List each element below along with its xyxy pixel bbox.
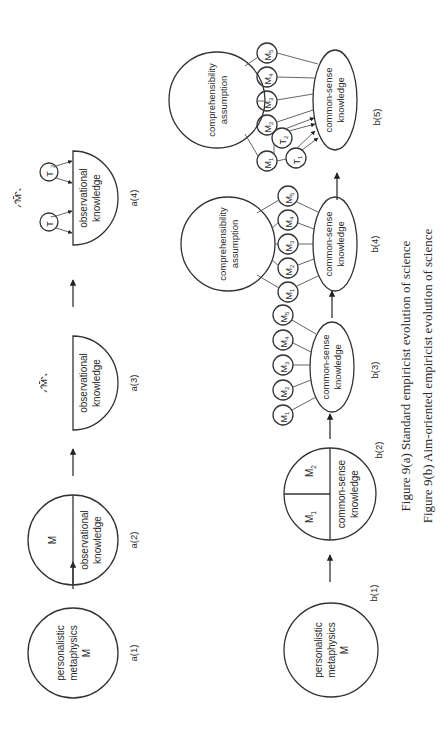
b3-line-2: knowledge — [332, 344, 343, 389]
svg-text:M5: M5 — [284, 192, 295, 204]
a1-line-3: M — [81, 649, 92, 657]
stage-label-b4: b(4) — [369, 236, 380, 253]
b5-comprehensibility-circle — [169, 52, 265, 148]
b5-theory-arrows — [285, 118, 318, 150]
stage-label-b2: b(2) — [373, 442, 384, 459]
caption-figure-9b: Figure 9(b) Aim-oriented empiricist evol… — [420, 228, 435, 523]
b4-line-2: knowledge — [335, 221, 346, 266]
a2-line-2: knowledge — [92, 516, 103, 564]
b2-M2: M2 — [304, 465, 317, 477]
a1-line-2: metaphysics — [68, 625, 79, 681]
b5-line-1: common-sense — [323, 68, 334, 133]
b5-line-2: knowledge — [335, 77, 346, 122]
svg-text:M2: M2 — [263, 121, 274, 133]
caption-figure-9a: Figure 9(a) Standard empiricist evolutio… — [398, 240, 413, 511]
a3-line-1: observational — [78, 353, 89, 412]
svg-text:M1: M1 — [279, 411, 290, 423]
a4-T2-label: T — [45, 171, 55, 177]
b3-metaphysics-circles: M1 M2 M3 M4 M5 — [273, 305, 293, 425]
svg-text:M5: M5 — [263, 49, 274, 61]
svg-text:M3: M3 — [284, 240, 295, 252]
b5-assumption-line-2: assumption — [218, 76, 229, 125]
arrow-T2-right — [56, 161, 72, 166]
b1-line-2: metaphysics — [326, 622, 337, 678]
b2-M1: M1 — [304, 511, 317, 523]
b1-line-1: personalistic — [313, 622, 324, 678]
svg-text:M3: M3 — [279, 361, 290, 373]
b4-lower-connectors — [297, 202, 318, 286]
stage-label-a1: a(1) — [128, 645, 139, 662]
b2-line-1: common-sense — [336, 459, 347, 528]
b5-upper-connectors — [245, 57, 265, 156]
svg-text:T2: T2 — [278, 135, 289, 145]
b5-lower-connectors — [277, 53, 318, 122]
stage-b2: M1 M2 common-sense knowledge b(2) — [284, 442, 384, 540]
b1-line-3: M — [339, 646, 350, 654]
b3-line-1: common-sense — [320, 335, 331, 400]
arrow-T1-right — [56, 211, 72, 216]
svg-text:M5: M5 — [279, 311, 290, 323]
b5-assumption-line-1: comprehensibility — [206, 63, 217, 137]
stage-a3: M observational knowledge a(3) — [38, 336, 139, 430]
stage-label-a2: a(2) — [128, 532, 139, 549]
stage-label-b1: b(1) — [368, 585, 379, 602]
a4-T1-label: T — [45, 221, 55, 227]
svg-text:M1: M1 — [284, 288, 295, 300]
b4-assumption-line-2: assumption — [229, 220, 240, 269]
a3-line-2: knowledge — [91, 359, 102, 407]
a1-line-1: personalistic — [55, 625, 66, 681]
b4-line-1: common-sense — [323, 212, 334, 277]
b3-connector-lines — [292, 320, 316, 410]
svg-text:M1: M1 — [263, 157, 274, 169]
stage-a1: personalistic metaphysics M a(1) — [28, 608, 139, 698]
a4-T2-sub: 2 — [50, 164, 56, 168]
svg-text:M4: M4 — [279, 336, 290, 348]
svg-text:M4: M4 — [284, 216, 295, 228]
figure-9-diagram: personalistic metaphysics M a(1) M obser… — [0, 0, 448, 732]
a4-dashed-M: M — [12, 194, 23, 202]
stage-b3: common-sense knowledge M1 M2 M3 M4 M5 b(… — [273, 305, 380, 425]
stage-b5: comprehensibility assumption M1 M2 M3 M4… — [169, 43, 382, 171]
stage-label-b5: b(5) — [371, 109, 382, 126]
a3-dashed-M: M — [38, 379, 49, 387]
a2-line-1: observational — [79, 510, 90, 569]
stage-label-b3: b(3) — [369, 362, 380, 379]
arrow-T1-left — [56, 228, 72, 233]
stage-label-a4: a(4) — [128, 190, 139, 207]
stage-b1: personalistic metaphysics M b(1) — [284, 585, 379, 697]
b4-metaphysics-circles: M1 M2 M3 M4 M5 — [278, 186, 298, 302]
svg-text:M2: M2 — [279, 386, 290, 398]
b4-assumption-line-1: comprehensibility — [217, 207, 228, 281]
a4-line-2: knowledge — [91, 174, 102, 222]
figure-9-rotated: personalistic metaphysics M a(1) M obser… — [0, 0, 448, 732]
svg-text:T1: T1 — [292, 155, 303, 165]
b2-line-2: knowledge — [349, 470, 360, 518]
stage-label-a3: a(3) — [128, 375, 139, 392]
a4-T1-sub: 1 — [50, 214, 56, 218]
svg-text:M4: M4 — [263, 73, 274, 85]
a2-metaphysics-label: M — [47, 536, 58, 544]
arrow-T2-left — [56, 178, 72, 183]
svg-text:M2: M2 — [284, 264, 295, 276]
stage-a2: M observational knowledge a(2) — [28, 495, 139, 585]
a4-line-1: observational — [78, 168, 89, 227]
stage-a4: M T 1 T 2 observational knowledge a(4) — [12, 151, 139, 245]
b4-upper-connectors — [257, 200, 279, 288]
stage-b4: comprehensibility assumption M1 M2 M3 M4… — [181, 186, 380, 302]
